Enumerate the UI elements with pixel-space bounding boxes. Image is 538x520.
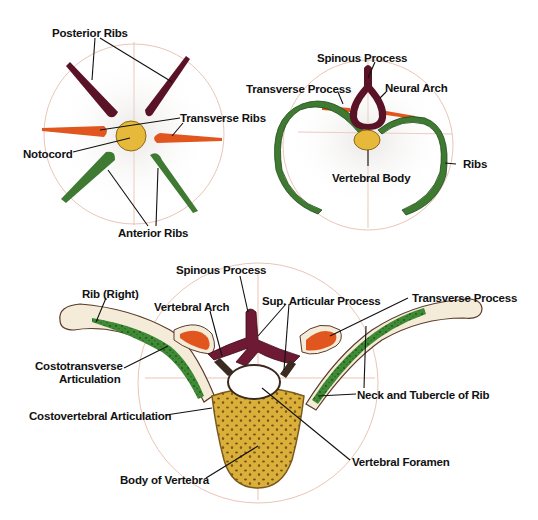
leader-sup-articular-1	[258, 304, 286, 336]
leader-costovertebral	[166, 408, 212, 415]
leader-spinous	[240, 276, 248, 312]
panel-thoracic: Spinous Process Rib (Right) Vertebral Ar…	[29, 263, 517, 503]
vertebral-body	[354, 130, 380, 150]
label-spinous-process: Spinous Process	[317, 52, 407, 64]
panel-primitive: Posterior Ribs Transverse Ribs Notocord …	[23, 27, 266, 239]
vertebral-foramen	[228, 365, 280, 399]
label-body-of-vertebra: Body of Vertebra	[120, 474, 210, 486]
label-neural-arch: Neural Arch	[385, 82, 448, 94]
label-transverse-process: Transverse Process	[412, 292, 517, 304]
label-spinous-process: Spinous Process	[176, 264, 266, 276]
label-rib-right: Rib (Right)	[82, 288, 139, 300]
label-ribs: Ribs	[463, 158, 487, 170]
label-vertebral-body: Vertebral Body	[332, 172, 411, 184]
body-of-vertebra	[212, 388, 304, 488]
label-sup-articular-process: Sup. Articular Process	[262, 295, 381, 307]
label-vertebral-arch: Vertebral Arch	[154, 301, 230, 313]
panel-developed: Spinous Process Transverse Process Neura…	[246, 52, 487, 230]
vertebra-rib-diagram: Posterior Ribs Transverse Ribs Notocord …	[0, 0, 538, 520]
sup-articular-left	[214, 358, 234, 376]
label-transverse-ribs: Transverse Ribs	[180, 112, 266, 124]
label-transverse-process: Transverse Process	[246, 83, 351, 95]
label-costovertebral-articulation: Costovertebral Articulation	[29, 410, 172, 422]
label-vertebral-foramen: Vertebral Foramen	[352, 456, 450, 468]
label-posterior-ribs: Posterior Ribs	[52, 27, 128, 39]
label-anterior-ribs: Anterior Ribs	[118, 227, 188, 239]
label-notocord: Notocord	[23, 148, 73, 160]
label-neck-tubercle-of-rib: Neck and Tubercle of Rib	[357, 389, 490, 401]
label-costotransverse-2: Articulation	[59, 373, 121, 385]
label-costotransverse-1: Costotransverse	[35, 360, 123, 372]
rib-left-bone	[60, 304, 214, 402]
leader-costotransverse	[124, 346, 168, 368]
